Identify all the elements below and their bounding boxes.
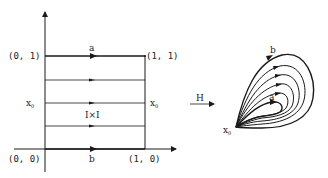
arrow-bottom-icon: [90, 146, 97, 152]
arrow-loop-2-icon: [273, 66, 279, 70]
label-x0-basepoint: x0: [223, 125, 231, 136]
label-a-top: a: [89, 43, 95, 53]
arrow-line1-icon: [89, 79, 95, 82]
label-IxI: I×I: [85, 110, 100, 120]
label-b-loop: b: [270, 45, 276, 55]
map-H: H: [190, 93, 214, 104]
label-b-bottom: b: [89, 154, 95, 164]
label-H: H: [196, 93, 204, 103]
diagram-canvas: (0, 1) (1, 1) (0, 0) (1, 0) a b x0 x0 I×…: [0, 0, 328, 178]
right-figure: [236, 54, 314, 128]
label-x0-left: x0: [26, 98, 34, 109]
arrow-top-icon: [90, 53, 97, 59]
label-x0-right: x0: [150, 98, 158, 109]
left-figure: (0, 1) (1, 1) (0, 0) (1, 0) a b x0 x0 I×…: [8, 12, 179, 172]
label-top-right: (1, 1): [146, 51, 179, 61]
label-bottom-right: (1, 0): [128, 154, 161, 164]
label-bottom-left: (0, 0): [8, 154, 41, 164]
arrow-line2-icon: [89, 102, 95, 105]
label-a-loop: a: [269, 92, 275, 102]
label-top-left: (0, 1): [8, 51, 41, 61]
loop-b: [236, 54, 314, 128]
arrow-line3-icon: [89, 125, 95, 128]
